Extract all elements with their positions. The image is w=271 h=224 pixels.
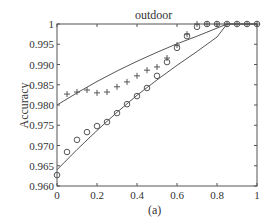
y-tick-label: 0.960 <box>29 180 54 192</box>
circle-marker <box>84 129 90 135</box>
y-tick-label: 0.965 <box>29 160 54 172</box>
plus-marker <box>144 67 150 73</box>
circle-marker <box>114 110 120 116</box>
x-tick-label: 0.2 <box>90 189 104 201</box>
y-axis-label: Accuracy <box>17 76 32 136</box>
circle-marker <box>94 123 100 129</box>
plus-marker <box>94 90 100 96</box>
fit-curve <box>57 24 257 170</box>
y-tick-label: 0.985 <box>29 79 54 91</box>
plot-frame <box>57 24 257 186</box>
y-tick-label: 0.970 <box>29 140 54 152</box>
plus-marker <box>114 84 120 90</box>
circle-marker <box>64 149 70 155</box>
y-tick-label: 0.975 <box>29 119 54 131</box>
x-tick-label: 0.4 <box>130 189 144 201</box>
circle-marker <box>74 137 80 143</box>
y-tick-label: 0.995 <box>29 38 54 50</box>
fit-curves <box>57 24 257 170</box>
plus-marker <box>154 64 160 70</box>
figure-caption: (a) <box>148 203 161 218</box>
data-markers <box>54 21 260 178</box>
x-tick-label: 0.8 <box>210 189 224 201</box>
plus-marker <box>124 79 130 85</box>
y-tick-label: 0.980 <box>29 99 54 111</box>
plus-marker <box>104 89 110 95</box>
chart-canvas: 00.20.40.60.810.9600.9650.9700.9750.9800… <box>0 0 271 224</box>
plus-marker <box>64 91 70 97</box>
x-tick-label: 0 <box>54 189 60 201</box>
x-tick-label: 1 <box>254 189 260 201</box>
x-tick-label: 0.6 <box>170 189 184 201</box>
plus-marker <box>134 73 140 79</box>
plot-axes: 00.20.40.60.810.9600.9650.9700.9750.9800… <box>29 18 260 201</box>
chart-title: outdoor <box>135 8 172 23</box>
y-tick-label: 0.990 <box>29 59 54 71</box>
circle-marker <box>134 93 140 99</box>
y-tick-label: 1 <box>49 18 55 30</box>
circle-marker <box>154 73 160 79</box>
